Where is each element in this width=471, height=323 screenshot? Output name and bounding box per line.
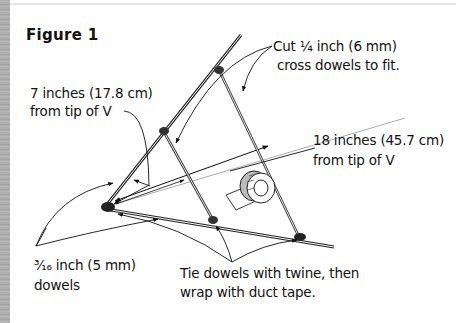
label-seven-inch-line2: from tip of V: [30, 102, 112, 120]
duct-tape-roll-icon: [226, 171, 275, 210]
label-tie-line2: wrap with duct tape.: [180, 283, 316, 301]
label-tie-line1: Tie dowels with twine, then: [180, 264, 359, 282]
label-eighteen-inch-line2: from tip of V: [313, 151, 395, 169]
cross-dowel-leaders: [176, 46, 272, 143]
eighteen-inch-leader: [230, 148, 315, 171]
label-cross-dowels-line1: Cut ¼ inch (6 mm): [273, 37, 397, 55]
label-dowels-line1: ³⁄₁₆ inch (5 mm): [34, 256, 136, 274]
label-dowels-line2: dowels: [34, 276, 80, 294]
cross-dowels: [164, 70, 299, 237]
label-eighteen-inch-line1: 18 inches (45.7 cm): [313, 131, 444, 149]
label-seven-inch-line1: 7 inches (17.8 cm): [30, 84, 153, 102]
label-cross-dowels-line2: cross dowels to fit.: [277, 56, 399, 74]
